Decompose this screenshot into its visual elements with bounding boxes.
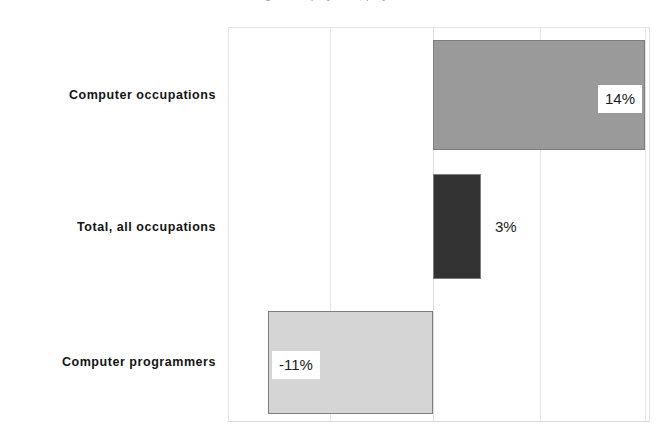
gridline-plus-20 [645,27,646,422]
x-axis-line [228,421,650,422]
category-label-computer-programmers: Computer programmers [0,356,216,369]
category-label-computer-occupations: Computer occupations [0,89,216,102]
value-label-computer-programmers: -11% [272,351,320,379]
gridline-minus-20 [228,27,229,422]
plot-area: 14% 3% -11% [228,27,650,422]
value-label-computer-occupations: 14% [598,85,642,113]
value-label-total-all-occupations: 3% [495,219,517,234]
chart-title: Percent change in employment, projected … [0,0,657,1]
chart-container: Percent change in employment, projected … [0,0,657,432]
bar-total-all-occupations[interactable] [433,174,481,279]
category-label-total-all-occupations: Total, all occupations [0,221,216,234]
